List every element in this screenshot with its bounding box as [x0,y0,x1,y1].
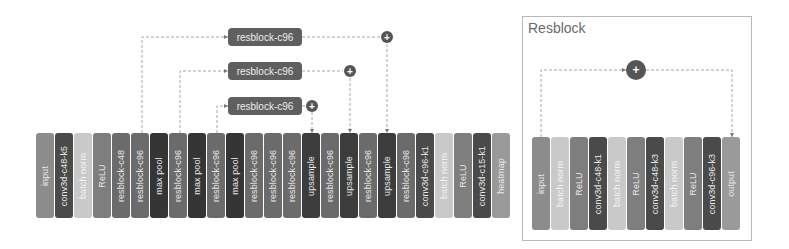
add-node-icon: + [626,60,646,80]
layer-label: batch norm [439,152,449,198]
layer-label: batch norm [78,152,88,198]
plus-icon: + [632,63,639,77]
layer-input: input [36,133,54,218]
layer-resblock-c96: resblock-c96 [359,133,377,218]
layer-label: resblock-c96 [268,149,278,201]
layer-max-pool: max pool [150,133,168,218]
layer-max-pool: max pool [188,133,206,218]
layer-label: ReLU [631,172,641,195]
layer-conv3d-c48-k5: conv3d-c48-k5 [55,133,73,218]
skip-resblock-middle: resblock-c96 [228,62,302,80]
resblock-layer-batch-norm: batch norm [551,137,569,230]
skip-resblock-label: resblock-c96 [237,66,294,77]
architecture-diagram: inputconv3d-c48-k5batch normReLUresblock… [0,0,789,249]
layer-label: ReLU [458,164,468,187]
layer-upsample: upsample [340,133,358,218]
layer-label: resblock-c96 [249,149,259,201]
layer-max-pool: max pool [226,133,244,218]
resblock-panel-title: Resblock [528,20,586,36]
add-node-icon: + [306,100,318,112]
skip-resblock-label: resblock-c96 [237,101,294,112]
layer-label: input [536,173,546,193]
layer-label: resblock-c96 [363,149,373,201]
layer-label: batch norm [555,160,565,206]
layer-resblock-c96: resblock-c96 [397,133,415,218]
layer-resblock-c96: resblock-c96 [264,133,282,218]
layer-label: ReLU [688,172,698,195]
layer-resblock-c96: resblock-c96 [321,133,339,218]
layer-resblock-c48: resblock-c48 [112,133,130,218]
layer-resblock-c96: resblock-c96 [207,133,225,218]
layer-batch-norm: batch norm [435,133,453,218]
layer-label: max pool [154,157,164,194]
layer-label: conv3d-c15-k1 [477,145,487,205]
layer-label: resblock-c96 [325,149,335,201]
layer-label: conv3d-c96-k1 [420,145,430,205]
layer-label: upsample [382,156,392,196]
layer-label: resblock-c96 [173,149,183,201]
layer-resblock-c96: resblock-c96 [131,133,149,218]
resblock-layer-output: output [722,137,740,230]
skip-resblock-bottom: resblock-c96 [228,97,302,115]
layer-conv3d-c15-k1: conv3d-c15-k1 [473,133,491,218]
layer-relu: ReLU [454,133,472,218]
resblock-layer-conv3d-c96-k3: conv3d-c96-k3 [703,137,721,230]
layer-label: resblock-c48 [116,149,126,201]
layer-label: batch norm [669,160,679,206]
resblock-layer-conv3d-c48-k1: conv3d-c48-k1 [589,137,607,230]
resblock-layer-relu: ReLU [684,137,702,230]
resblock-layer-batch-norm: batch norm [608,137,626,230]
layer-label: conv3d-c96-k3 [707,153,717,213]
layer-label: input [40,165,50,185]
add-node-icon: + [344,65,356,77]
skip-resblock-top: resblock-c96 [228,28,302,46]
layer-conv3d-c96-k1: conv3d-c96-k1 [416,133,434,218]
layer-label: batch norm [612,160,622,206]
layer-label: output [726,171,736,197]
resblock-layer-input: input [532,137,550,230]
layer-label: upsample [306,156,316,196]
resblock-layer-relu: ReLU [570,137,588,230]
layer-label: ReLU [97,164,107,187]
layer-label: resblock-c96 [287,149,297,201]
layer-label: conv3d-c48-k1 [593,153,603,213]
layer-label: max pool [192,157,202,194]
layer-resblock-c96: resblock-c96 [245,133,263,218]
resblock-layer-batch-norm: batch norm [665,137,683,230]
layer-batch-norm: batch norm [74,133,92,218]
layer-label: resblock-c96 [211,149,221,201]
plus-icon: + [384,32,390,43]
layer-upsample: upsample [378,133,396,218]
layer-label: ReLU [574,172,584,195]
layer-resblock-c96: resblock-c96 [169,133,187,218]
layer-label: max pool [230,157,240,194]
layer-label: conv3d-c48-k5 [59,145,69,205]
layer-label: resblock-c96 [135,149,145,201]
resblock-layer-conv3d-c48-k3: conv3d-c48-k3 [646,137,664,230]
layer-label: resblock-c96 [401,149,411,201]
layer-relu: ReLU [93,133,111,218]
layer-resblock-c96: resblock-c96 [283,133,301,218]
layer-label: upsample [344,156,354,196]
layer-heatmap: heatmap [492,133,510,218]
layer-upsample: upsample [302,133,320,218]
add-node-icon: + [381,31,393,43]
skip-resblock-label: resblock-c96 [237,32,294,43]
layer-label: conv3d-c48-k3 [650,153,660,213]
resblock-layer-relu: ReLU [627,137,645,230]
plus-icon: + [309,101,315,112]
layer-label: heatmap [496,158,506,194]
plus-icon: + [347,66,353,77]
